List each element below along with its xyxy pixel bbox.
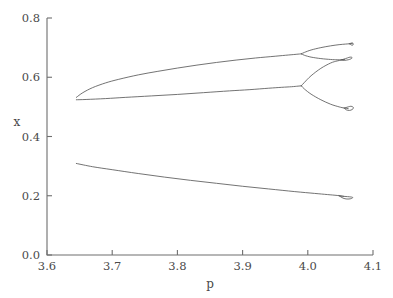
plot-canvas: 3.63.73.83.94.04.1 0.00.20.40.60.8 p x [0,0,393,298]
x-tick-label: 3.7 [103,259,121,273]
x-tick-label: 4.0 [299,259,317,273]
y-tick-label: 0.6 [22,70,40,84]
y-tick-label: 0.8 [22,11,40,25]
y-tick-label: 0.4 [22,130,40,144]
plot-area-background [47,18,373,255]
x-axis-title: p [206,277,214,291]
y-axis-title: x [14,115,21,129]
y-tick-label: 0.0 [22,248,40,262]
x-tick-label: 3.6 [38,259,56,273]
x-tick-label: 4.1 [364,259,382,273]
bifurcation-diagram-figure: 3.63.73.83.94.04.1 0.00.20.40.60.8 p x [0,0,393,298]
x-tick-label: 3.8 [168,259,186,273]
y-tick-label: 0.2 [22,189,40,203]
x-tick-label: 3.9 [233,259,251,273]
